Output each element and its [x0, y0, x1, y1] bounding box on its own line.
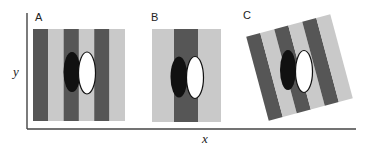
- panel-b: B: [151, 11, 221, 122]
- panel-b-label: B: [151, 11, 158, 23]
- panel-a: A: [33, 11, 125, 121]
- panel-c: C: [243, 9, 353, 121]
- y-axis-label: y: [11, 64, 19, 79]
- black-ellipse: [280, 50, 296, 90]
- black-ellipse: [171, 57, 188, 98]
- panel-a-label: A: [35, 11, 43, 23]
- panel-c-label: C: [243, 9, 251, 21]
- white-ellipse: [296, 51, 313, 93]
- figure: y x A B C: [0, 0, 369, 147]
- x-axis-label: x: [201, 131, 208, 146]
- white-ellipse: [79, 52, 96, 94]
- white-ellipse: [187, 57, 204, 99]
